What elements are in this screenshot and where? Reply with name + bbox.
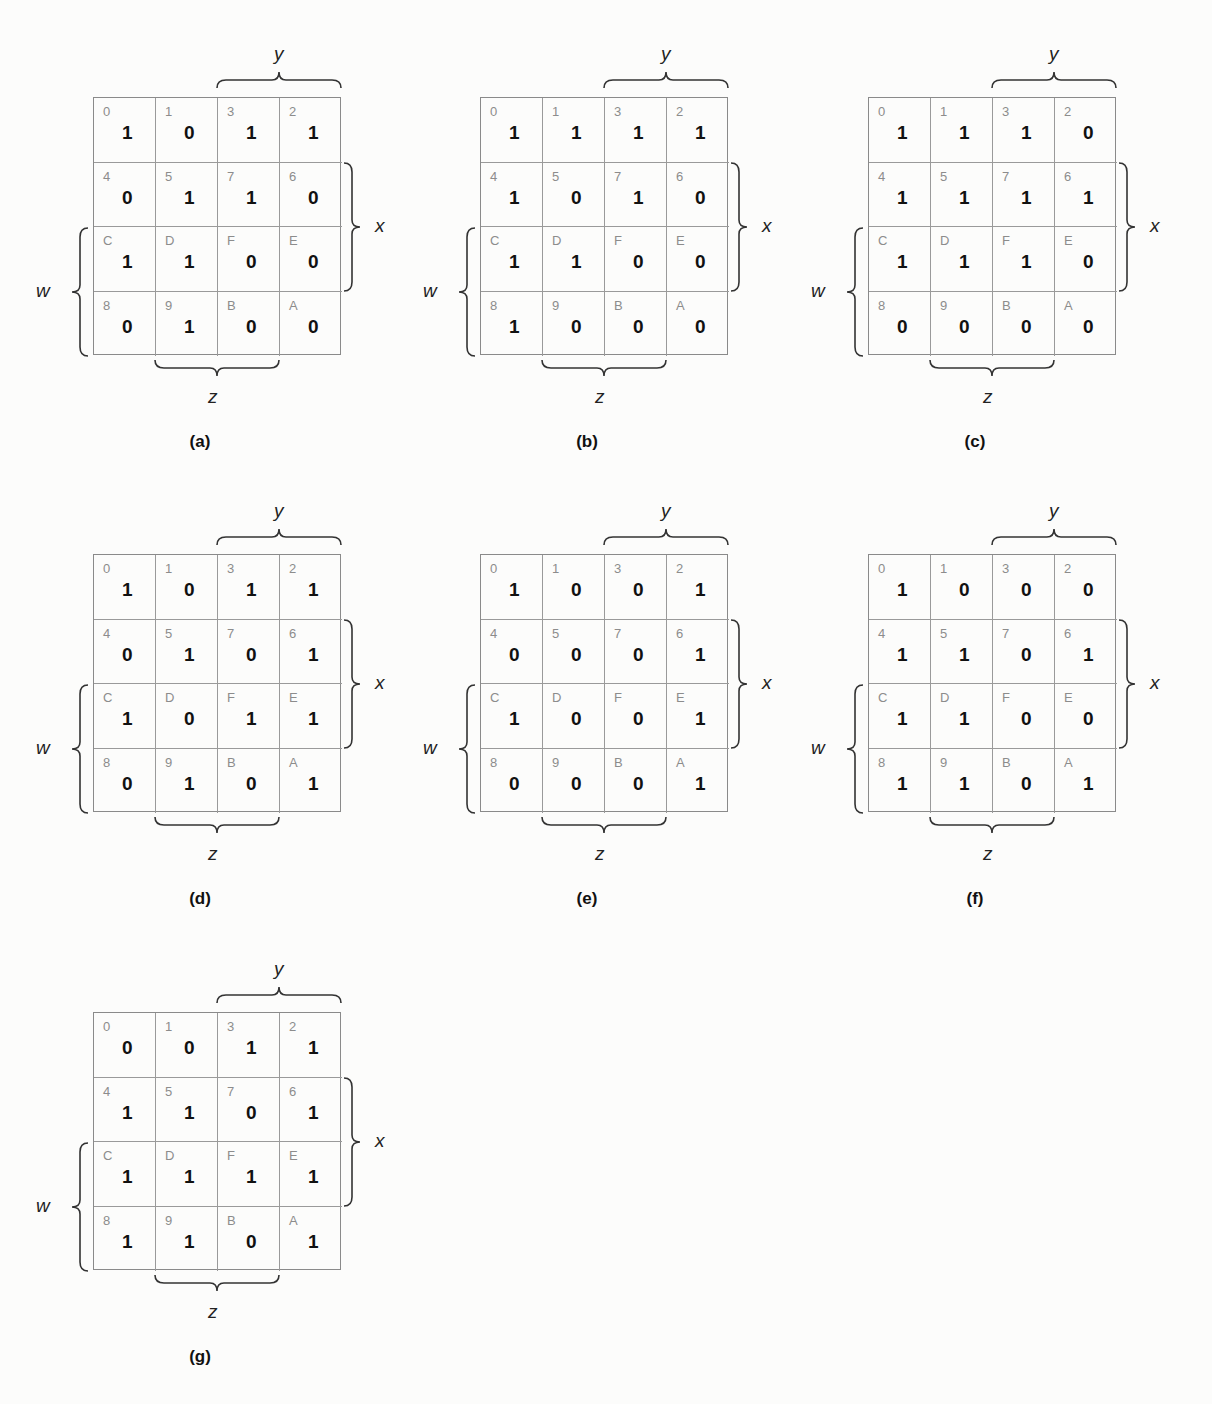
minterm-index: 9 [165, 1213, 172, 1228]
cell-value: 0 [1083, 122, 1094, 144]
cell-value: 1 [122, 708, 133, 730]
kmap-cell: A 1 [667, 749, 729, 814]
cell-value: 0 [246, 251, 257, 273]
cell-value: 1 [897, 122, 908, 144]
cell-value: 1 [1083, 644, 1094, 666]
kmap-cell: B 0 [218, 749, 280, 814]
kmap-cell: 0 1 [94, 98, 156, 163]
var-w-label: w [811, 280, 825, 302]
minterm-index: C [490, 690, 499, 705]
kmap-cell: D 1 [931, 227, 993, 292]
cell-value: 0 [959, 316, 970, 338]
kmap-cell: 9 1 [931, 749, 993, 814]
minterm-index: D [940, 233, 949, 248]
kmap-cell: 4 1 [481, 163, 543, 228]
cell-value: 1 [122, 1231, 133, 1253]
cell-value: 1 [959, 773, 970, 795]
cell-value: 1 [308, 1037, 319, 1059]
minterm-index: E [289, 1148, 298, 1163]
karnaugh-map: y x w z 0 0 1 0 3 1 [30, 955, 390, 1375]
kmap-cell: B 0 [993, 292, 1055, 357]
kmap-cell: C 1 [94, 684, 156, 749]
var-w-label: w [36, 1195, 50, 1217]
minterm-index: 7 [227, 1084, 234, 1099]
minterm-index: 1 [165, 104, 172, 119]
cell-value: 1 [897, 708, 908, 730]
minterm-index: 1 [165, 1019, 172, 1034]
kmap-cell: 8 1 [94, 1207, 156, 1272]
minterm-index: F [1002, 233, 1010, 248]
minterm-index: C [878, 233, 887, 248]
kmap-cell: A 0 [1055, 292, 1117, 357]
cell-value: 0 [571, 708, 582, 730]
kmap-cell: 7 0 [605, 620, 667, 685]
cell-value: 1 [509, 316, 520, 338]
cell-value: 0 [246, 644, 257, 666]
cell-value: 1 [122, 122, 133, 144]
minterm-index: 8 [490, 298, 497, 313]
minterm-index: A [676, 755, 685, 770]
kmap-cell: 5 1 [156, 163, 218, 228]
minterm-index: 5 [165, 626, 172, 641]
kmap-cell: 8 0 [869, 292, 931, 357]
minterm-index: 2 [289, 104, 296, 119]
cell-value: 0 [246, 316, 257, 338]
kmap-cell: 7 0 [993, 620, 1055, 685]
z-brace-icon [929, 358, 1055, 378]
kmap-cell: 0 1 [94, 555, 156, 620]
var-x-label: x [375, 672, 385, 694]
kmap-cell: A 0 [667, 292, 729, 357]
cell-value: 1 [246, 1037, 257, 1059]
cell-value: 1 [246, 1166, 257, 1188]
map-caption: (g) [185, 1347, 215, 1367]
z-brace-icon [154, 1273, 280, 1293]
var-x-label: x [375, 215, 385, 237]
kmap-cell: 5 1 [156, 620, 218, 685]
minterm-index: 4 [490, 169, 497, 184]
cell-value: 0 [184, 708, 195, 730]
kmap-cell: C 1 [94, 1142, 156, 1207]
minterm-index: 9 [165, 298, 172, 313]
cell-value: 1 [184, 316, 195, 338]
kmap-cell: E 1 [280, 684, 342, 749]
kmap-cell: F 0 [605, 227, 667, 292]
kmap-grid: 0 1 1 1 3 1 2 0 4 1 5 1 [868, 97, 1116, 355]
cell-value: 0 [633, 316, 644, 338]
minterm-index: C [490, 233, 499, 248]
map-caption: (b) [572, 432, 602, 452]
kmap-cell: 7 0 [218, 620, 280, 685]
kmap-cell: 3 1 [605, 98, 667, 163]
minterm-index: 0 [103, 561, 110, 576]
w-brace-icon [457, 227, 477, 357]
minterm-index: 2 [289, 1019, 296, 1034]
karnaugh-map: y x w z 0 1 1 0 3 1 [30, 497, 390, 917]
kmap-cell: 0 1 [869, 555, 931, 620]
kmap-cell: 4 0 [94, 163, 156, 228]
minterm-index: 8 [878, 755, 885, 770]
kmap-cell: C 1 [869, 684, 931, 749]
kmap-cell: 7 1 [605, 163, 667, 228]
var-z-label: z [208, 843, 218, 865]
kmap-cell: 8 1 [869, 749, 931, 814]
minterm-index: D [940, 690, 949, 705]
minterm-index: 5 [552, 169, 559, 184]
minterm-index: B [227, 298, 236, 313]
kmap-cell: 2 1 [280, 98, 342, 163]
var-y-label: y [661, 43, 671, 65]
minterm-index: 8 [878, 298, 885, 313]
minterm-index: 5 [940, 169, 947, 184]
minterm-index: 3 [227, 561, 234, 576]
cell-value: 1 [308, 122, 319, 144]
cell-value: 1 [246, 579, 257, 601]
minterm-index: 4 [490, 626, 497, 641]
kmap-cell: 3 1 [993, 98, 1055, 163]
kmap-cell: 4 1 [869, 620, 931, 685]
cell-value: 0 [1083, 316, 1094, 338]
kmap-cell: 5 1 [156, 1078, 218, 1143]
kmap-grid: 0 0 1 0 3 1 2 1 4 1 5 1 [93, 1012, 341, 1270]
kmap-cell: 1 0 [156, 555, 218, 620]
karnaugh-map: y x w z 0 1 1 0 3 1 [30, 40, 390, 460]
minterm-index: D [165, 1148, 174, 1163]
minterm-index: E [1064, 233, 1073, 248]
kmap-cell: 0 0 [94, 1013, 156, 1078]
